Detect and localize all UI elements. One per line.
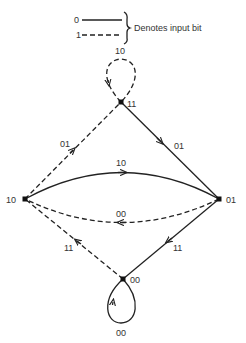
edge-label-top-self: 10 — [115, 46, 125, 56]
node-left: 10 — [6, 195, 28, 205]
node-bottom: 00 — [121, 275, 141, 285]
legend-dashed-bit: 1 — [76, 30, 81, 40]
node-right: 01 — [217, 195, 237, 205]
edge-label-left-to-top: 01 — [60, 139, 70, 149]
edge-bottom-to-left: 11 — [25, 199, 123, 279]
legend-description: Denotes input bit — [134, 23, 202, 33]
node-label-right: 01 — [226, 195, 236, 205]
node-label-top: 11 — [127, 99, 136, 109]
state-diagram: 0 1 Denotes input bit 10 01 01 10 00 — [0, 0, 246, 343]
edge-label-bottom-to-left: 11 — [64, 243, 73, 253]
node-label-left: 10 — [6, 195, 16, 205]
edge-bottom-self-loop: 00 — [108, 279, 136, 338]
node-top: 11 — [119, 99, 137, 109]
edge-top-self-loop: 10 — [107, 46, 136, 102]
edge-left-to-right: 10 — [25, 158, 219, 199]
edge-right-to-bottom: 11 — [123, 199, 219, 279]
legend-brace — [124, 12, 130, 44]
edge-top-to-right: 01 — [121, 102, 219, 199]
node-label-bottom: 00 — [130, 275, 140, 285]
edge-label-bottom-self: 00 — [116, 328, 126, 338]
legend: 0 1 Denotes input bit — [74, 12, 202, 44]
edge-label-left-to-right: 10 — [116, 158, 126, 168]
legend-solid-bit: 0 — [74, 15, 79, 25]
edge-label-right-to-left: 00 — [116, 209, 126, 219]
edge-label-right-to-bottom: 11 — [173, 243, 182, 253]
edge-right-to-left: 00 — [25, 199, 219, 223]
edge-label-top-to-right: 01 — [174, 141, 184, 151]
edge-left-to-top: 01 — [25, 102, 121, 199]
